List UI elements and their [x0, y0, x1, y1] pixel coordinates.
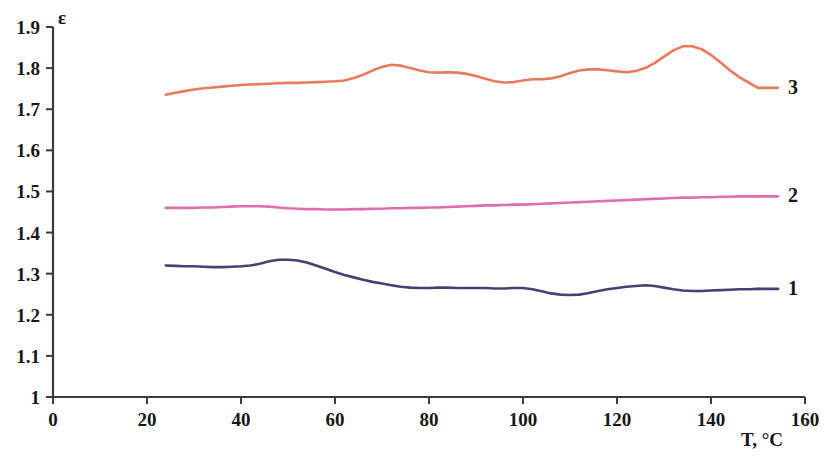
- x-axis-tick-label: 160: [775, 410, 824, 429]
- x-axis-tick-label: 40: [211, 410, 271, 429]
- series-line-3: [166, 46, 758, 95]
- y-axis-tick-label: 1.5: [0, 182, 40, 201]
- x-axis-tick-label: 140: [681, 410, 741, 429]
- x-axis-tick-label: 20: [117, 410, 177, 429]
- y-axis-tick-label: 1.4: [0, 224, 40, 243]
- y-axis-tick-label: 1: [0, 388, 40, 407]
- series-label-3: 3: [788, 77, 798, 97]
- y-axis-tick-label: 1.8: [0, 59, 40, 78]
- y-axis-tick-label: 1.2: [0, 306, 40, 325]
- x-axis-title: T, °C: [741, 430, 783, 449]
- y-axis-tick-label: 1.6: [0, 141, 40, 160]
- x-axis-tick-label: 80: [399, 410, 459, 429]
- x-axis-tick-label: 0: [23, 410, 83, 429]
- y-axis-tick-label: 1.1: [0, 347, 40, 366]
- series-line-2: [166, 196, 758, 209]
- series-group: [166, 46, 778, 295]
- y-axis-tick-label: 1.3: [0, 265, 40, 284]
- series-label-1: 1: [788, 278, 798, 298]
- y-axis-tick-label: 1.7: [0, 100, 40, 119]
- x-axis-tick-label: 100: [493, 410, 553, 429]
- series-line-1: [166, 260, 758, 295]
- y-axis-title: ε: [58, 8, 66, 27]
- x-axis-tick-label: 120: [587, 410, 647, 429]
- series-label-2: 2: [788, 185, 798, 205]
- x-axis-tick-label: 60: [305, 410, 365, 429]
- axes-group: [46, 27, 805, 404]
- y-axis-tick-label: 1.9: [0, 18, 40, 37]
